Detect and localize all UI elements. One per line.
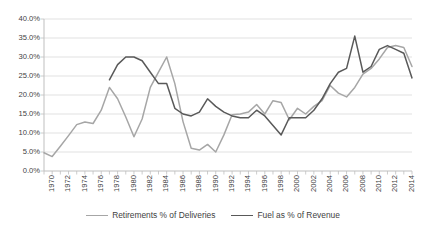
x-tick-label: 1970 <box>48 175 56 192</box>
x-tick-label: 1980 <box>130 175 138 192</box>
x-tick-label: 2000 <box>293 175 301 192</box>
y-tick-label: 0.0% <box>0 167 40 175</box>
chart-legend: Retirements % of Deliveries Fuel as % of… <box>0 207 426 223</box>
y-tick-label: 40.0% <box>0 15 40 23</box>
x-tick-label: 1976 <box>97 175 105 192</box>
x-tick-label: 2004 <box>326 175 334 192</box>
legend-item-retirements: Retirements % of Deliveries <box>86 210 215 220</box>
x-tick-label: 1982 <box>146 175 154 192</box>
x-tick-label: 1978 <box>113 175 121 192</box>
x-axis: 1970197219741976197819801982198419861988… <box>44 175 412 211</box>
x-tick-label: 1984 <box>162 175 170 192</box>
y-tick-label: 35.0% <box>0 34 40 42</box>
series-line-retirements <box>44 46 412 157</box>
y-tick-label: 25.0% <box>0 72 40 80</box>
x-tick-label: 2010 <box>375 175 383 192</box>
x-tick-label: 1996 <box>261 175 269 192</box>
x-tick-label: 1974 <box>81 175 89 192</box>
series-lines <box>44 19 412 171</box>
y-axis: 0.0%5.0%10.0%15.0%20.0%25.0%30.0%35.0%40… <box>0 0 40 171</box>
x-tick-label: 2012 <box>391 175 399 192</box>
y-tick-label: 5.0% <box>0 148 40 156</box>
x-tick-label: 2006 <box>342 175 350 192</box>
legend-label-fuel: Fuel as % of Revenue <box>257 210 339 220</box>
y-tick-label: 10.0% <box>0 129 40 137</box>
y-tick-label: 15.0% <box>0 110 40 118</box>
y-tick-label: 30.0% <box>0 53 40 61</box>
legend-swatch-fuel <box>231 215 253 216</box>
x-tick-label: 1992 <box>228 175 236 192</box>
x-tick-label: 1972 <box>64 175 72 192</box>
x-tick-label: 1990 <box>212 175 220 192</box>
x-tick-label: 1998 <box>277 175 285 192</box>
x-tick-label: 2008 <box>359 175 367 192</box>
chart-container: 0.0%5.0%10.0%15.0%20.0%25.0%30.0%35.0%40… <box>0 0 426 229</box>
x-tick-label: 2014 <box>408 175 416 192</box>
plot-area <box>44 19 412 171</box>
legend-swatch-retirements <box>86 215 108 216</box>
y-tick-label: 20.0% <box>0 91 40 99</box>
series-line-fuel <box>109 36 412 135</box>
legend-item-fuel: Fuel as % of Revenue <box>231 210 339 220</box>
x-tick-label: 1994 <box>244 175 252 192</box>
x-tick-label: 1986 <box>179 175 187 192</box>
legend-label-retirements: Retirements % of Deliveries <box>112 210 215 220</box>
x-tick-label: 1988 <box>195 175 203 192</box>
x-tick-label: 2002 <box>310 175 318 192</box>
